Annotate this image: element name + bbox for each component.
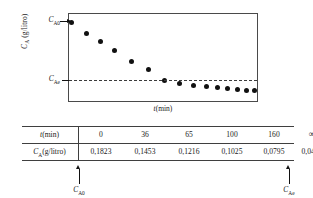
data-point: [146, 67, 151, 72]
y-axis-label: CA (g/litro): [20, 0, 31, 65]
callout-label-equilibrium: CAe: [269, 185, 309, 196]
table-row: t(min) 0 36 65 100 160 ∞: [22, 126, 294, 143]
arrow-stem: [289, 169, 290, 184]
table-cell-conc-3: 0,1025: [211, 143, 253, 160]
table-cell-conc-4: 0,0795: [253, 143, 295, 160]
table-cell-conc-1: 0,1453: [123, 143, 167, 160]
y-tick-label-initial: CA0: [34, 15, 60, 26]
data-point: [98, 39, 103, 44]
data-point: [215, 85, 220, 90]
data-point: [244, 88, 249, 93]
data-point: [235, 87, 240, 92]
data-point: [252, 88, 257, 93]
arrow-stem: [79, 169, 80, 184]
data-point: [191, 83, 196, 88]
data-point: [204, 84, 209, 89]
table-cell-conc-0: 0,1823: [79, 143, 123, 160]
kinetics-figure: CA (g/litro) t(min) CA0 CAe t(min) 0 36 …: [0, 0, 313, 198]
callout-label-initial: CA0: [59, 185, 99, 196]
x-axis-label: t(min): [118, 104, 208, 113]
table-cell-time-4: 160: [253, 126, 295, 143]
table-cell-time-2: 65: [167, 126, 211, 143]
plot-area: [68, 13, 258, 102]
data-point: [112, 48, 117, 53]
table-cell-time-5: ∞: [290, 126, 313, 143]
table-row-header-concentration: CA(g/litro): [22, 143, 77, 160]
table-cell-time-0: 0: [79, 126, 123, 143]
table-cell-time-1: 36: [123, 126, 167, 143]
table-row-header-time: t(min): [22, 126, 77, 143]
table-cell-time-3: 100: [211, 126, 253, 143]
equilibrium-tick-mark: [62, 80, 69, 81]
data-point: [84, 31, 89, 36]
equilibrium-dashed-line: [69, 80, 257, 81]
table-cell-conc-2: 0,1216: [167, 143, 211, 160]
data-point: [177, 81, 182, 86]
initial-concentration-arrow-icon: [60, 21, 70, 22]
data-point: [129, 59, 134, 64]
data-table: t(min) 0 36 65 100 160 ∞ CA(g/litro) 0,1…: [22, 126, 294, 162]
data-point: [225, 86, 230, 91]
y-tick-label-equilibrium: CAe: [34, 74, 60, 85]
table-row: CA(g/litro) 0,1823 0,1453 0,1216 0,1025 …: [22, 143, 294, 160]
table-cell-conc-5: 0,0495: [290, 143, 313, 160]
table-rule-bottom: [22, 160, 294, 161]
